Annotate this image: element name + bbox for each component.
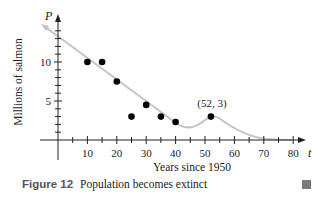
svg-text:60: 60 <box>229 147 241 159</box>
model-curve <box>44 26 292 140</box>
point-annotation: (52, 3) <box>197 97 227 110</box>
y-tick-labels: 5 10 <box>40 56 52 107</box>
end-of-example-mark <box>302 180 311 189</box>
svg-text:10: 10 <box>82 147 94 159</box>
data-point <box>158 113 165 120</box>
svg-text:20: 20 <box>111 147 123 159</box>
svg-text:80: 80 <box>288 147 300 159</box>
svg-text:5: 5 <box>46 95 52 107</box>
y-axis-arrow-icon <box>55 14 61 22</box>
figure-label: Figure 12 <box>22 178 73 190</box>
svg-text:50: 50 <box>200 147 212 159</box>
y-axis-title: Millions of salmon <box>12 38 24 126</box>
x-axis-title: Years since 1950 <box>153 161 231 173</box>
data-point <box>128 113 135 120</box>
data-point <box>208 113 215 120</box>
svg-text:40: 40 <box>170 147 182 159</box>
data-point <box>114 78 121 85</box>
chart: 10 20 30 40 50 60 70 80 5 10 P t Million… <box>0 0 330 199</box>
svg-text:70: 70 <box>258 147 270 159</box>
caption-text: Population becomes extinct <box>80 178 207 190</box>
y-variable-label: P <box>44 9 53 23</box>
data-point <box>99 59 106 66</box>
svg-text:10: 10 <box>40 56 52 68</box>
data-point <box>143 102 150 109</box>
svg-text:30: 30 <box>141 147 153 159</box>
x-axis-arrow-icon <box>298 137 306 143</box>
x-tick-labels: 10 20 30 40 50 60 70 80 <box>82 147 299 159</box>
data-point <box>172 119 179 126</box>
figure-caption: Figure 12 Population becomes extinct <box>22 178 207 190</box>
x-variable-label: t <box>308 146 312 160</box>
data-point <box>84 59 91 66</box>
